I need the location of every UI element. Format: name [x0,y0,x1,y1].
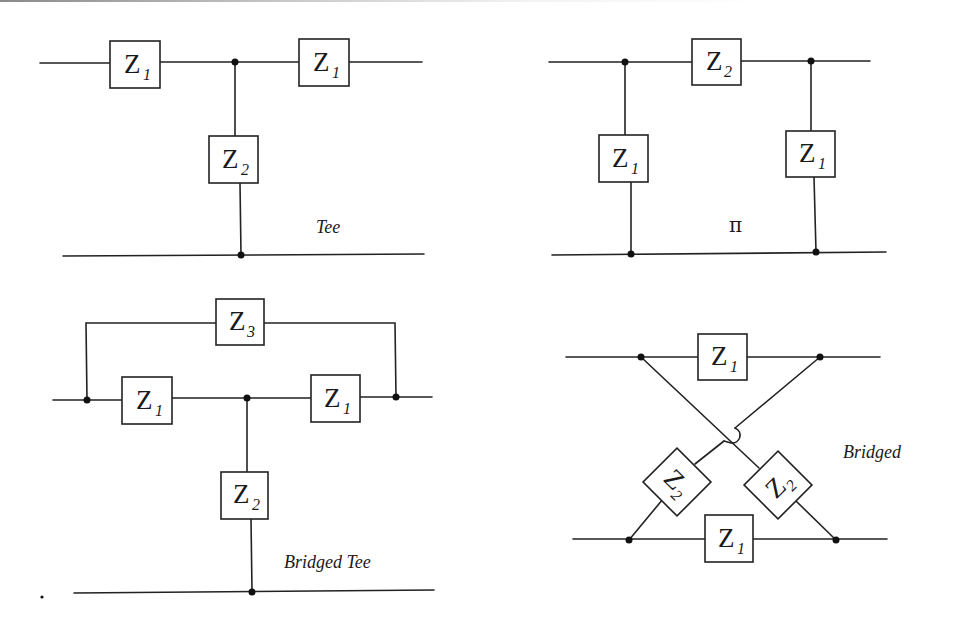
bridged-tee-network: Z 3 Z 1 Z 1 Z 2 Bridged Tee [40,299,434,599]
pi-bottom-left-junction [628,251,635,258]
bridged-z1-top-sub: 1 [730,358,738,375]
pi-z1-left-sub: 1 [631,160,639,177]
bridged-tee-z1-right-sub: 1 [343,400,351,417]
bridged-z1-top-box: Z 1 [698,334,747,380]
bridged-tee-z1-left-box: Z 1 [122,377,172,424]
bridged-z1-bottom-box: Z 1 [705,515,753,562]
bridged-z1-bottom-main: Z [718,523,735,553]
bridged-diagonal-down-left-middle [695,441,724,464]
pi-right-shunt-lower-wire [814,177,816,252]
bridged-tee-z3-main: Z [229,306,246,336]
bridged-tee-z1-left-main: Z [136,385,153,415]
pi-top-right-junction [808,58,815,65]
bridged-tee-z3-sub: 3 [246,323,255,340]
pi-ground-wire [552,252,886,255]
bridged-z1-top-main: Z [711,341,728,371]
bridged-tee-shunt-lower-wire [251,519,252,591]
bridged-tee-z1-right-box: Z 1 [311,375,360,422]
bridged-tee-label: Bridged Tee [284,552,371,572]
bridged-tee-z3-box: Z 3 [216,299,264,345]
pi-network: Z 2 Z 1 Z 1 π [549,39,886,258]
tee-top-junction [232,59,239,66]
tee-z1-right-sub: 1 [332,64,340,81]
bridged-tee-z2-box: Z 2 [221,472,268,519]
bridged-tee-z1-right-main: Z [324,383,341,413]
pi-top-left-junction [622,59,629,66]
tee-z1-right-main: Z [313,47,330,77]
pi-z1-right-box: Z 1 [786,131,835,177]
network-diagrams: Z 1 Z 1 Z 2 Tee Z 2 [0,0,955,620]
tee-z1-left-main: Z [124,49,141,79]
pi-label: π [729,213,742,237]
bridged-z2-right-diamond: Z 2 [744,451,812,519]
bridged-tee-left-junction [84,397,91,404]
bridged-tee-bottom-junction [249,589,256,596]
tee-network: Z 1 Z 1 Z 2 Tee [40,39,424,259]
bridged-bottom-left-junction [626,537,633,544]
bridged-top-left-junction [638,354,645,361]
stray-dot [40,595,43,598]
tee-label: Tee [316,217,340,237]
bridged-tee-z1-left-sub: 1 [155,402,163,419]
tee-z2-box: Z 2 [209,136,258,183]
tee-z1-left-box: Z 1 [110,41,160,88]
pi-z2-box: Z 2 [692,39,741,85]
pi-z1-right-sub: 1 [818,155,826,172]
bridged-network: Z 1 Z 1 Z 2 Z 2 Bridged [566,334,902,562]
tee-z1-left-sub: 1 [143,66,151,83]
tee-shunt-lower-wire [240,183,241,255]
pi-z1-left-main: Z [612,143,629,173]
bridged-tee-z2-sub: 2 [252,496,260,513]
pi-z2-sub: 2 [724,63,732,80]
bridged-z2-left-diamond: Z 2 [643,448,711,516]
bridged-z1-bottom-sub: 1 [737,540,745,557]
bridged-diagonal-down-right-lower [796,501,836,540]
tee-z1-right-box: Z 1 [299,39,349,86]
bridged-crossover-hop [724,428,740,443]
bridged-top-right-junction [817,354,824,361]
tee-z2-sub: 2 [241,161,249,178]
pi-z1-right-main: Z [799,138,816,168]
pi-bottom-right-junction [813,249,820,256]
bridged-diagonal-down-left-lower [629,499,663,540]
tee-z2-main: Z [222,144,239,174]
pi-z1-left-box: Z 1 [599,135,648,182]
bridged-tee-z2-main: Z [233,479,250,509]
tee-bottom-junction [238,252,245,259]
bridged-tee-mid-junction [244,395,251,402]
bridged-bottom-right-junction [833,537,840,544]
pi-z2-main: Z [706,46,723,76]
bridged-label: Bridged [843,442,902,462]
bridged-tee-right-junction [393,394,400,401]
